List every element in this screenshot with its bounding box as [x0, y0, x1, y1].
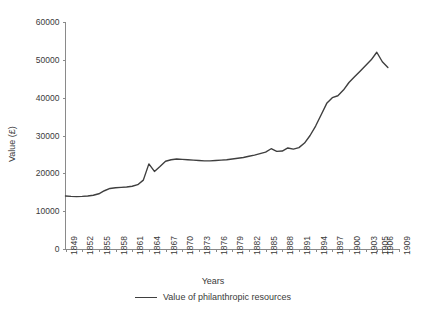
x-tick-label: 1894: [320, 236, 329, 255]
series-line-value-of-philanthropic-resources: [66, 52, 388, 196]
x-tick-label: 1882: [253, 236, 262, 255]
x-tick-label: 1885: [270, 236, 279, 255]
y-axis-title: Value (£): [8, 126, 17, 162]
y-tick-label: 60000: [36, 18, 60, 27]
y-tick-label: 50000: [36, 56, 60, 65]
x-tick-label: 1870: [186, 236, 195, 255]
x-tick-label: 1906: [386, 236, 395, 255]
x-tick-label: 1879: [236, 236, 245, 255]
x-tick-label: 1873: [203, 236, 212, 255]
chart-plot-area: [0, 0, 426, 318]
x-tick-label: 1900: [353, 236, 362, 255]
chart-container: 0100002000030000400005000060000 18491852…: [0, 0, 426, 318]
x-tick-label: 1897: [336, 236, 345, 255]
x-tick-label: 1861: [136, 236, 145, 255]
x-tick-label: 1855: [103, 236, 112, 255]
y-tick-label: 40000: [36, 94, 60, 103]
x-tick-label: 1903: [370, 236, 379, 255]
x-tick-label: 1864: [153, 236, 162, 255]
y-tick-label: 20000: [36, 169, 60, 178]
legend-line-swatch: [135, 297, 157, 298]
x-tick-label: 1858: [120, 236, 129, 255]
legend-label: Value of philanthropic resources: [163, 293, 291, 302]
x-tick-label: 1891: [303, 236, 312, 255]
x-tick-label: 1888: [286, 236, 295, 255]
x-tick-label: 1852: [86, 236, 95, 255]
x-tick-label: 1876: [220, 236, 229, 255]
x-tick-label: 1909: [403, 236, 412, 255]
chart-legend: Value of philanthropic resources: [0, 293, 426, 302]
y-tick-label: 30000: [36, 132, 60, 141]
x-tick-label: 1867: [170, 236, 179, 255]
x-axis-title: Years: [0, 277, 426, 286]
y-tick-label: 0: [55, 245, 60, 254]
y-tick-label: 10000: [36, 207, 60, 216]
x-tick-label: 1849: [70, 236, 79, 255]
x-axis-ticks: [66, 249, 400, 252]
